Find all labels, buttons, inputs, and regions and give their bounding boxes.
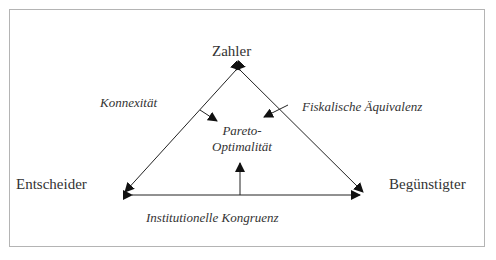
node-beguenstigter: Begünstigter [389, 177, 466, 192]
center-line-2: Optimalität [200, 139, 284, 155]
arrow-konnexitaet-to-center [200, 110, 217, 121]
node-zahler: Zahler [212, 44, 251, 59]
node-entscheider: Entscheider [16, 177, 87, 192]
center-line-1: Pareto- [200, 123, 284, 139]
arrow-aequivalenz-to-center [264, 105, 288, 117]
center-pareto-optimalitaet: Pareto- Optimalität [200, 123, 284, 155]
criterion-konnexitaet: Konnexität [100, 96, 157, 109]
criterion-fiskalische-aequivalenz: Fiskalische Äquivalenz [302, 100, 422, 113]
criterion-institutionelle-kongruenz: Institutionelle Kongruenz [146, 211, 279, 224]
